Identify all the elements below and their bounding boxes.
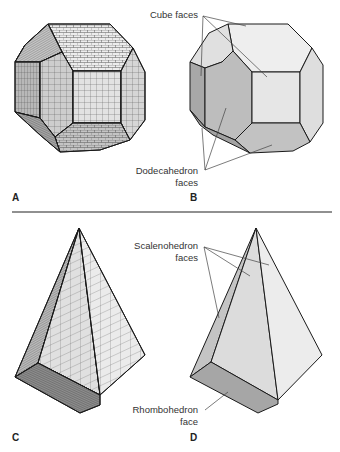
crystal-d: [190, 228, 322, 413]
label-rhombohedron-line1: Rhombohedron: [110, 404, 198, 415]
panel-label-a: A: [12, 192, 19, 203]
crystal-b: [190, 24, 323, 153]
b-front-cube-face: [252, 72, 300, 123]
label-dodecahedron-line1: Dodecahedron: [118, 165, 198, 176]
crystal-figure: [0, 0, 340, 452]
panel-label-d: D: [190, 432, 197, 443]
label-scalenohedron-line2: faces: [110, 252, 198, 263]
panel-label-b: B: [190, 192, 197, 203]
b-left-cube-face: [190, 62, 205, 127]
label-dodecahedron-line2: faces: [118, 177, 198, 188]
label-scalenohedron-line1: Scalenohedron: [110, 240, 198, 251]
label-rhombohedron-line2: face: [110, 416, 198, 427]
crystal-a: [15, 24, 145, 152]
panel-label-c: C: [12, 432, 19, 443]
label-cube-faces: Cube faces: [140, 9, 198, 20]
